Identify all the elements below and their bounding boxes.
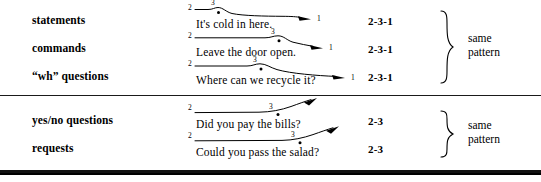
pattern-code: 2-3-1 bbox=[368, 43, 393, 55]
same-pattern-group-bottom: same pattern bbox=[438, 110, 533, 158]
category-label: statements bbox=[32, 14, 85, 26]
tone-peak-label: 3 bbox=[291, 130, 295, 139]
tone-start-label: 2 bbox=[188, 103, 192, 112]
example-sentence: Where can we recycle it? bbox=[196, 74, 316, 86]
same-pattern-caption-line1: same bbox=[468, 32, 492, 46]
tone-peak-label: 3 bbox=[253, 55, 257, 64]
category-label: requests bbox=[32, 142, 73, 154]
tone-end-label: 1 bbox=[329, 43, 333, 52]
tone-peak-label: 3 bbox=[211, 0, 215, 7]
pattern-code: 2-3-1 bbox=[368, 15, 393, 27]
stress-dot-icon bbox=[299, 141, 302, 144]
curly-brace-icon bbox=[438, 10, 464, 84]
category-label: “wh” questions bbox=[32, 70, 109, 82]
curly-brace-icon bbox=[438, 110, 464, 158]
tone-start-label: 2 bbox=[188, 3, 192, 12]
same-pattern-caption-line2: pattern bbox=[468, 133, 500, 147]
example-cell: 2 3 Could you pass the salad? bbox=[196, 136, 371, 164]
tone-start-label: 2 bbox=[188, 131, 192, 140]
pattern-code: 2-3-1 bbox=[368, 71, 393, 83]
section-divider bbox=[0, 95, 541, 96]
tone-start-label: 2 bbox=[188, 59, 192, 68]
example-sentence: Could you pass the salad? bbox=[196, 146, 319, 158]
same-pattern-caption-line2: pattern bbox=[468, 46, 500, 60]
pattern-code: 2-3 bbox=[368, 143, 383, 155]
pattern-code: 2-3 bbox=[368, 115, 383, 127]
stress-dot-icon bbox=[277, 113, 280, 116]
tone-start-label: 2 bbox=[188, 31, 192, 40]
stress-dot-icon bbox=[260, 67, 263, 70]
same-pattern-caption-line1: same bbox=[468, 119, 492, 133]
tone-peak-label: 3 bbox=[269, 102, 273, 111]
tone-end-label: 1 bbox=[351, 73, 355, 82]
category-label: commands bbox=[32, 42, 86, 54]
stress-dot-icon bbox=[278, 39, 281, 42]
bottom-border-rule bbox=[0, 170, 541, 175]
tone-end-label: 1 bbox=[317, 14, 321, 23]
stress-dot-icon bbox=[217, 11, 220, 14]
example-cell: 2 3 1 Where can we recycle it? bbox=[196, 64, 371, 92]
category-label: yes/no questions bbox=[32, 114, 113, 126]
intonation-pattern-figure: statements 2 3 1 It's cold in here. 2-3-… bbox=[0, 0, 541, 182]
same-pattern-group-top: same pattern bbox=[438, 10, 533, 84]
tone-peak-label: 3 bbox=[271, 27, 275, 36]
